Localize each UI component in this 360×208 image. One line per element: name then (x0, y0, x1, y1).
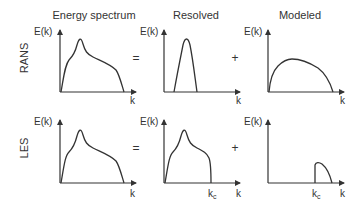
column-title-resolved: Resolved (173, 9, 219, 21)
y-axis-label: E(k) (244, 116, 262, 127)
column-title-modeled: Modeled (279, 9, 321, 21)
les-modeled-plot: E(k) kc k (244, 116, 346, 200)
cutoff-wavenumber-label: kc (312, 188, 321, 200)
cutoff-wavenumber-label: kc (208, 188, 217, 200)
resolved-curve (174, 39, 197, 92)
modeled-curve (315, 163, 332, 183)
resolved-curve (165, 130, 211, 183)
y-axis-label: E(k) (140, 26, 158, 37)
x-axis-label: k (130, 95, 136, 106)
plus-sign: + (231, 51, 238, 65)
les-resolved-plot: E(k) kc k (140, 116, 242, 200)
x-axis-label: k (236, 188, 242, 199)
x-axis-label: k (340, 188, 346, 199)
plus-sign: + (231, 141, 238, 155)
x-axis-label: k (340, 95, 346, 106)
spectrum-curve (61, 130, 124, 183)
rans-modeled-plot: E(k) k (244, 26, 346, 106)
rans-resolved-plot: E(k) k (140, 26, 242, 106)
x-axis-label: k (130, 188, 136, 199)
y-axis-label: E(k) (140, 116, 158, 127)
y-axis-label: E(k) (34, 26, 52, 37)
les-energy-spectrum-plot: E(k) k (34, 116, 136, 199)
equals-sign: = (132, 51, 139, 65)
modeled-curve (269, 59, 333, 92)
column-title-energy-spectrum: Energy spectrum (52, 9, 135, 21)
equals-sign: = (132, 141, 139, 155)
rans-energy-spectrum-plot: E(k) k (34, 26, 136, 106)
rans-les-spectrum-diagram: Energy spectrum Resolved Modeled RANS LE… (0, 0, 360, 208)
x-axis-label: k (236, 95, 242, 106)
y-axis-label: E(k) (34, 116, 52, 127)
row-label-les: LES (18, 138, 30, 159)
spectrum-curve (61, 39, 124, 92)
row-label-rans: RANS (18, 43, 30, 74)
y-axis-label: E(k) (244, 26, 262, 37)
